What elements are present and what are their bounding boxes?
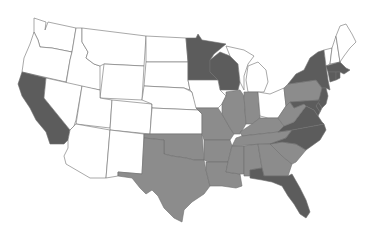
state-ME[interactable] <box>336 24 356 62</box>
state-MT[interactable] <box>82 28 146 66</box>
state-SD[interactable] <box>144 62 190 90</box>
state-ND[interactable] <box>146 36 188 62</box>
state-AZ[interactable] <box>64 124 110 178</box>
state-IN[interactable] <box>244 92 260 124</box>
state-CT[interactable] <box>328 72 336 82</box>
state-KS[interactable] <box>150 108 202 134</box>
us-choropleth-map <box>0 0 374 245</box>
state-RI[interactable] <box>336 72 340 80</box>
state-NM[interactable] <box>106 130 144 178</box>
state-WY[interactable] <box>100 64 144 100</box>
state-AR[interactable] <box>204 140 232 162</box>
state-CO[interactable] <box>110 100 152 134</box>
